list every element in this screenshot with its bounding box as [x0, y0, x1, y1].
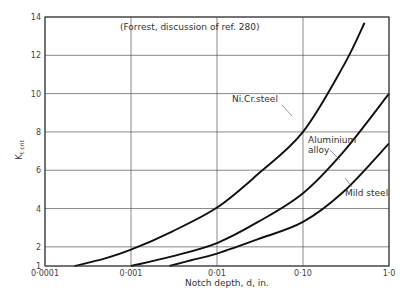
leader-mild — [345, 178, 352, 187]
x-tick-label: 0·01 — [208, 269, 226, 278]
chart: 0·00010·0010·010·101·012468101214 (Forre… — [0, 0, 410, 303]
y-tick-label: 8 — [36, 128, 41, 137]
tick-labels: 0·00010·0010·010·101·012468101214 — [31, 13, 396, 278]
x-tick-label: 0·001 — [120, 269, 143, 278]
label-alloy: alloy — [308, 145, 330, 155]
y-axis-label: Kt crit — [14, 139, 25, 160]
y-tick-label: 1 — [36, 262, 41, 271]
x-tick-label: 0·10 — [294, 269, 312, 278]
label-aluminium: Aluminium — [308, 135, 356, 145]
svg-text:Kt crit: Kt crit — [14, 139, 25, 160]
y-tick-label: 14 — [31, 13, 41, 22]
chart-title: (Forrest, discussion of ref. 280) — [120, 22, 259, 32]
y-tick-label: 10 — [31, 90, 41, 99]
label-mild-steel: Mild steel — [345, 188, 388, 198]
leader-nicr — [282, 105, 292, 116]
y-tick-label: 2 — [36, 243, 41, 252]
leader-aluminium — [330, 150, 340, 160]
y-tick-label: 6 — [36, 166, 41, 175]
y-tick-label: 4 — [36, 205, 41, 214]
y-tick-label: 12 — [31, 51, 41, 60]
x-axis-label: Notch depth, d, in. — [185, 278, 269, 288]
y-axis-label-sub: t crit — [18, 139, 25, 154]
x-tick-label: 1·0 — [383, 269, 396, 278]
curve-aluminium-alloy — [131, 94, 389, 266]
label-nicr-steel: Ni.Cr.steel — [232, 94, 278, 104]
